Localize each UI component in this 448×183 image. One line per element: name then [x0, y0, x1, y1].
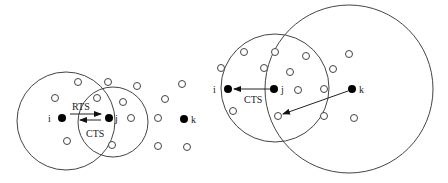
- idle-node: [272, 49, 279, 56]
- rts-cts-diagram: RTS CTS i j k CTS i j k: [0, 0, 448, 183]
- idle-node: [155, 115, 162, 122]
- cts-label: CTS: [244, 94, 262, 105]
- idle-node: [241, 49, 248, 56]
- idle-node: [287, 69, 294, 76]
- idle-node: [321, 113, 328, 120]
- node-j: [105, 114, 113, 122]
- idle-nodes: [218, 49, 358, 122]
- idle-node: [94, 95, 101, 102]
- idle-node: [218, 65, 225, 72]
- idle-node: [179, 81, 186, 88]
- node-j-label: j: [114, 113, 118, 124]
- idle-node: [75, 79, 82, 86]
- node-k: [180, 115, 188, 123]
- right-panel: CTS i j k: [213, 5, 433, 173]
- node-k-label: k: [191, 114, 196, 125]
- cts-label: CTS: [86, 128, 104, 139]
- node-k-label: k: [359, 84, 364, 95]
- idle-node: [155, 143, 162, 150]
- left-panel: RTS CTS i j k: [17, 72, 196, 170]
- idle-node: [162, 96, 169, 103]
- idle-node: [64, 138, 71, 145]
- range-i-circle: [17, 72, 115, 170]
- idle-node: [321, 86, 328, 93]
- diagram-canvas: RTS CTS i j k CTS i j k: [0, 0, 448, 183]
- node-j: [270, 85, 278, 93]
- node-i: [224, 85, 232, 93]
- idle-node: [303, 53, 310, 60]
- idle-node: [295, 87, 302, 94]
- transmission-ranges: [17, 72, 148, 170]
- idle-node: [128, 115, 135, 122]
- idle-node: [134, 83, 141, 90]
- idle-node: [330, 66, 337, 73]
- node-k: [348, 85, 356, 93]
- idle-node: [346, 51, 353, 58]
- idle-node: [105, 79, 112, 86]
- node-i-label: i: [48, 113, 51, 124]
- idle-node: [109, 142, 116, 149]
- idle-node: [351, 115, 358, 122]
- idle-node: [275, 113, 282, 120]
- node-i: [58, 114, 66, 122]
- interference-arrow: [283, 91, 348, 114]
- idle-node: [230, 108, 237, 115]
- rts-label: RTS: [72, 101, 90, 112]
- idle-node: [261, 65, 268, 72]
- node-i-label: i: [213, 84, 216, 95]
- idle-node: [120, 99, 127, 106]
- idle-node: [52, 95, 59, 102]
- node-j-label: j: [280, 84, 284, 95]
- idle-node: [184, 144, 191, 151]
